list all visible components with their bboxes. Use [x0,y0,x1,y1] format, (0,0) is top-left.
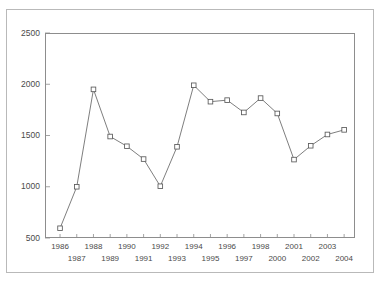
data-point-marker [74,184,79,189]
data-point-marker [325,132,330,137]
data-point-marker [91,87,96,92]
x-tick-label: 1996 [210,243,244,251]
data-point-marker [225,98,230,103]
x-tick-label: 1989 [93,255,127,263]
data-point-marker [275,111,280,116]
x-tick-label: 2003 [310,243,344,251]
data-point-marker [242,110,247,115]
y-tick-label: 500 [6,234,40,242]
x-tick-label: 1995 [193,255,227,263]
data-point-marker [58,226,63,231]
data-line [60,85,344,228]
data-markers [58,83,347,231]
x-tick-label: 2002 [294,255,328,263]
x-tick-label: 1991 [127,255,161,263]
x-tick-label: 1990 [110,243,144,251]
y-tick-label: 2000 [6,80,40,88]
x-tick-label: 1997 [227,255,261,263]
y-axis-ticks [45,33,50,238]
data-point-marker [108,134,113,139]
data-point-marker [292,157,297,162]
data-point-marker [342,128,347,133]
data-point-marker [308,143,313,148]
x-tick-label: 2004 [327,255,361,263]
y-tick-label: 1000 [6,182,40,190]
x-tick-label: 1993 [160,255,194,263]
x-tick-label: 1986 [43,243,77,251]
x-tick-label: 2000 [260,255,294,263]
x-tick-label: 1987 [60,255,94,263]
x-tick-label: 1992 [143,243,177,251]
y-tick-label: 1500 [6,131,40,139]
data-point-marker [158,184,163,189]
data-point-marker [258,96,263,101]
data-point-marker [175,144,180,149]
chart-figure: 5001000150020002500 19861987198819891990… [0,0,381,284]
y-tick-label: 2500 [6,29,40,37]
data-point-marker [125,144,130,149]
x-tick-label: 2001 [277,243,311,251]
x-tick-label: 1998 [244,243,278,251]
x-axis-ticks [60,234,344,238]
data-point-marker [208,99,213,104]
x-tick-label: 1994 [177,243,211,251]
data-point-marker [191,83,196,88]
data-point-marker [141,157,146,162]
x-tick-label: 1988 [76,243,110,251]
